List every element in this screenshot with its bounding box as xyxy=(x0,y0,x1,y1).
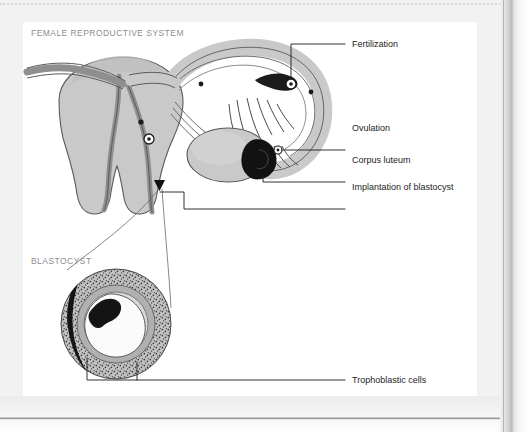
ovary-highlight xyxy=(191,131,247,165)
callout-label-trophoblastic-cells: Trophoblastic cells xyxy=(352,376,426,385)
ovum-ovulation-nucleus xyxy=(277,149,280,152)
page-edge-line-inner xyxy=(509,0,510,432)
zygote-marker-1 xyxy=(309,90,314,95)
callout-label-corpus-luteum: Corpus luteum xyxy=(352,156,411,165)
page-canvas: FEMALE REPRODUCTIVE SYSTEM BLASTOCYST Fe… xyxy=(0,0,525,432)
page-edge-line-outer xyxy=(503,0,504,432)
figure-card: FEMALE REPRODUCTIVE SYSTEM BLASTOCYST Fe… xyxy=(23,22,477,396)
morula-nucleus xyxy=(147,137,151,141)
page-bottom-rule xyxy=(0,417,503,420)
blastocyst-detail xyxy=(61,266,171,379)
ovum-fertilized-nucleus xyxy=(289,82,293,86)
section-caption-blastocyst: BLASTOCYST xyxy=(31,256,92,266)
magnifier-cone-right xyxy=(162,189,171,308)
tube-isthmus xyxy=(131,77,175,82)
callout-label-implantation: Implantation of blastocyst xyxy=(352,183,454,192)
zygote-marker-2 xyxy=(199,82,204,87)
zygote-marker-3 xyxy=(138,119,143,124)
leader-implantation xyxy=(160,192,345,209)
top-dotted-rule xyxy=(0,3,525,5)
corpus-luteum xyxy=(242,140,276,179)
page-bottom-band xyxy=(0,396,503,432)
anatomy-illustration xyxy=(23,22,477,396)
section-caption-female-reproductive-system: FEMALE REPRODUCTIVE SYSTEM xyxy=(31,28,184,38)
callout-label-fertilization: Fertilization xyxy=(352,40,398,49)
callout-label-ovulation: Ovulation xyxy=(352,124,390,133)
